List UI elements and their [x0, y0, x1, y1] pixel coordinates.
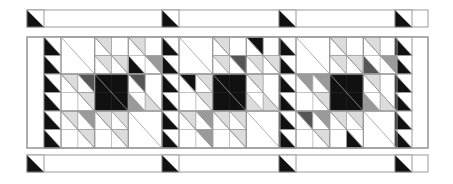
quilt-svg — [0, 0, 453, 184]
block-2-center-square — [230, 74, 247, 93]
block-3-center-square — [330, 93, 347, 112]
block-1-center-square — [95, 93, 112, 112]
block-3-center-square — [347, 74, 364, 93]
block-2-center-square — [213, 93, 230, 112]
block-1-center-square — [112, 74, 129, 93]
bottom-border-strip — [27, 155, 428, 172]
top-border-strip — [27, 10, 428, 27]
quilt-border-diagram — [0, 0, 453, 184]
